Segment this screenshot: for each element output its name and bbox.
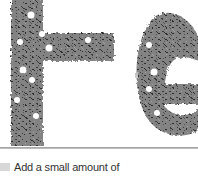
divider — [0, 147, 198, 149]
hero-image — [0, 0, 198, 146]
step-text: Add a small amount of — [14, 161, 119, 173]
textured-letters-image — [0, 0, 198, 146]
step-thumbnail-icon — [0, 163, 10, 171]
instruction-step: Add a small amount of — [0, 160, 119, 174]
